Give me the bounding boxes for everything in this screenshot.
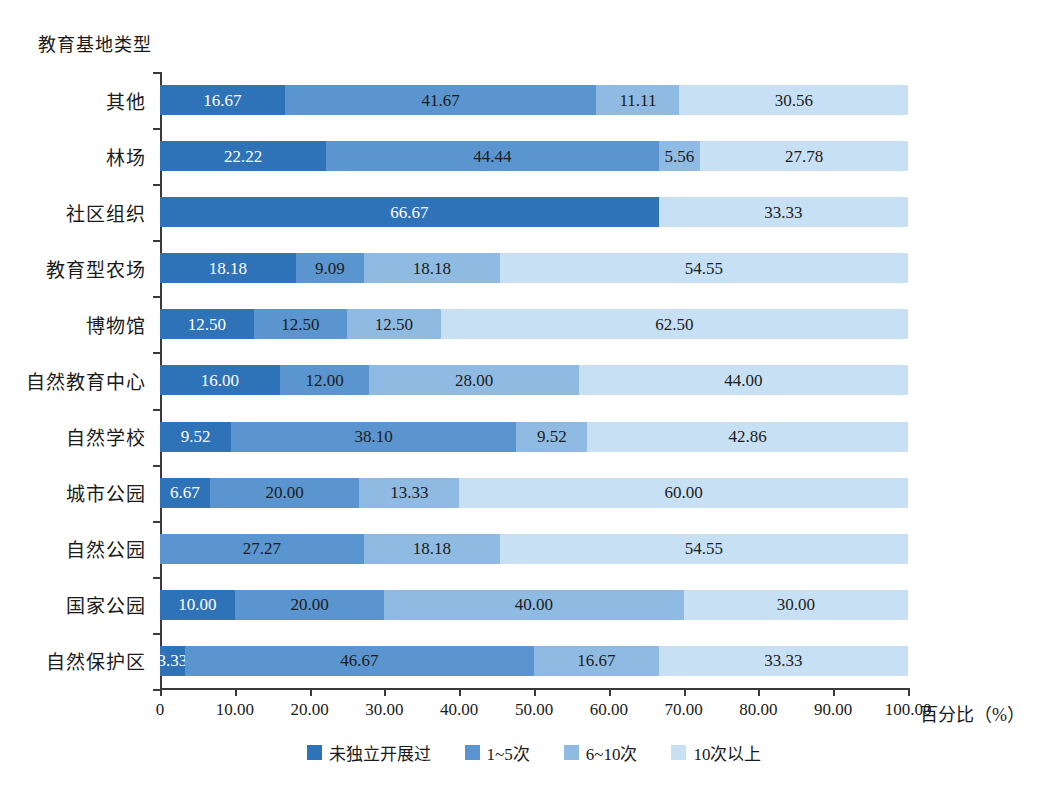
category-label-3: 教育型农场 [0,255,146,282]
bar-value-label: 20.00 [290,596,328,613]
category-label-8: 自然公园 [0,535,146,562]
bar-segment[interactable]: 33.33 [659,646,908,676]
bar-value-label: 9.09 [315,260,345,277]
legend-item-0[interactable]: 未独立开展过 [307,740,431,765]
bar-segment[interactable]: 66.67 [160,197,659,227]
stacked-bar[interactable]: 16.6741.6711.1130.56 [160,85,908,115]
bar-value-label: 18.18 [413,260,451,277]
legend-label: 10次以上 [693,740,761,765]
stacked-bar[interactable]: 66.6733.33 [160,197,908,227]
bar-row: 自然教育中心16.0012.0028.0044.00 [160,352,908,408]
bar-segment[interactable]: 5.56 [659,141,701,171]
bar-segment[interactable]: 12.50 [254,309,348,339]
bar-segment[interactable]: 12.50 [347,309,441,339]
legend-item-2[interactable]: 6~10次 [564,740,638,765]
bar-value-label: 16.67 [577,652,615,669]
category-label-5: 自然教育中心 [0,367,146,394]
bar-segment[interactable]: 16.00 [160,365,280,395]
bar-segment[interactable]: 6.67 [160,478,210,508]
bar-segment[interactable]: 20.00 [235,590,385,620]
stacked-bar[interactable]: 6.6720.0013.3360.00 [160,478,908,508]
stacked-bar[interactable]: 10.0020.0040.0030.00 [160,590,908,620]
legend-label: 6~10次 [586,740,638,765]
x-axis-tick-label: 0 [156,700,165,720]
bar-segment[interactable]: 46.67 [185,646,534,676]
bar-segment[interactable]: 27.78 [700,141,908,171]
bar-segment[interactable]: 42.86 [587,422,908,452]
stacked-bar[interactable]: 22.2244.445.5627.78 [160,141,908,171]
x-axis-tick-label: 90.00 [814,700,852,720]
legend-label: 未独立开展过 [329,740,431,765]
bar-segment[interactable]: 9.52 [516,422,587,452]
stacked-bar[interactable]: 12.5012.5012.5062.50 [160,309,908,339]
x-axis-tick-label: 30.00 [365,700,403,720]
bar-value-label: 42.86 [729,428,767,445]
bar-segment[interactable]: 12.50 [160,309,254,339]
bar-value-label: 16.67 [203,92,241,109]
bar-segment[interactable]: 33.33 [659,197,908,227]
x-axis-tick [384,688,386,696]
bar-value-label: 40.00 [515,596,553,613]
category-label-4: 博物馆 [0,311,146,338]
category-label-6: 自然学校 [0,423,146,450]
bar-segment[interactable]: 40.00 [384,590,683,620]
bar-segment[interactable]: 60.00 [459,478,908,508]
bar-segment[interactable]: 18.18 [364,253,500,283]
bar-segment[interactable]: 3.33 [160,646,185,676]
x-axis-tick-label: 50.00 [515,700,553,720]
stacked-bar[interactable]: 27.2718.1854.55 [160,534,908,564]
bar-segment[interactable]: 27.27 [160,534,364,564]
bar-value-label: 62.50 [655,316,693,333]
stacked-bar[interactable]: 3.3346.6716.6733.33 [160,646,908,676]
x-axis-tick-label: 60.00 [590,700,628,720]
stacked-bar[interactable]: 16.0012.0028.0044.00 [160,365,908,395]
bar-value-label: 27.27 [243,540,281,557]
bar-segment[interactable]: 20.00 [210,478,360,508]
bar-value-label: 6.67 [170,484,200,501]
bar-segment[interactable]: 30.00 [684,590,908,620]
stacked-bar[interactable]: 18.189.0918.1854.55 [160,253,908,283]
bar-value-label: 33.33 [764,652,802,669]
bar-segment[interactable]: 9.09 [296,253,364,283]
bar-segment[interactable]: 22.22 [160,141,326,171]
legend-item-1[interactable]: 1~5次 [465,740,530,765]
bar-row: 城市公园6.6720.0013.3360.00 [160,465,908,521]
bar-value-label: 38.10 [355,428,393,445]
bar-segment[interactable]: 11.11 [596,85,679,115]
bar-value-label: 10.00 [178,596,216,613]
bar-value-label: 44.44 [473,148,511,165]
bar-segment[interactable]: 16.67 [160,85,285,115]
bar-segment[interactable]: 54.55 [500,534,908,564]
bar-value-label: 12.50 [188,316,226,333]
bar-row: 国家公园10.0020.0040.0030.00 [160,577,908,633]
stacked-bar[interactable]: 9.5238.109.5242.86 [160,422,908,452]
bar-segment[interactable]: 62.50 [441,309,909,339]
bar-segment[interactable]: 54.55 [500,253,908,283]
bar-segment[interactable]: 38.10 [231,422,516,452]
legend-item-3[interactable]: 10次以上 [671,740,761,765]
bar-value-label: 12.50 [281,316,319,333]
x-axis-tick-label: 20.00 [290,700,328,720]
bar-value-label: 16.00 [201,372,239,389]
stacked-bar-chart: 教育基地类型 其他16.6741.6711.1130.56林场22.2244.4… [0,0,1063,793]
bar-value-label: 18.18 [413,540,451,557]
bar-segment[interactable]: 10.00 [160,590,235,620]
bar-value-label: 27.78 [785,148,823,165]
bar-value-label: 30.00 [777,596,815,613]
bar-segment[interactable]: 9.52 [160,422,231,452]
bar-segment[interactable]: 12.00 [280,365,370,395]
bar-segment[interactable]: 16.67 [534,646,659,676]
bar-value-label: 41.67 [421,92,459,109]
bar-segment[interactable]: 44.00 [579,365,908,395]
bar-segment[interactable]: 30.56 [679,85,908,115]
category-label-1: 林场 [0,143,146,170]
bar-segment[interactable]: 28.00 [369,365,578,395]
bar-value-label: 9.52 [181,428,211,445]
bar-segment[interactable]: 44.44 [326,141,658,171]
x-axis-tick [609,688,611,696]
bar-segment[interactable]: 13.33 [359,478,459,508]
bar-segment[interactable]: 18.18 [364,534,500,564]
bar-row: 林场22.2244.445.5627.78 [160,128,908,184]
bar-segment[interactable]: 41.67 [285,85,597,115]
bar-segment[interactable]: 18.18 [160,253,296,283]
